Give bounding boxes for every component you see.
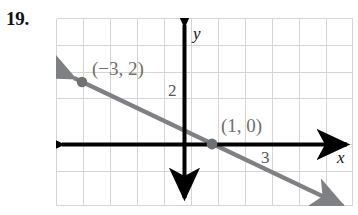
coordinate-graph: (−3, 2) (1, 0) 2 3 y x [56,18,353,206]
x-tick-label-3: 3 [261,148,270,168]
x-axis-label: x [337,148,345,168]
problem-number: 19. [6,8,29,30]
y-tick-label-2: 2 [168,81,177,101]
point-label-neg3-2: (−3, 2) [92,58,144,80]
grid-lines [57,19,353,206]
point-marker-neg3-2 [77,77,87,87]
point-label-1-0: (1, 0) [221,115,262,137]
figure-container: 19. [0,0,358,215]
graph-svg [56,18,353,206]
y-axis-label: y [193,24,201,44]
point-marker-1-0 [207,139,218,150]
